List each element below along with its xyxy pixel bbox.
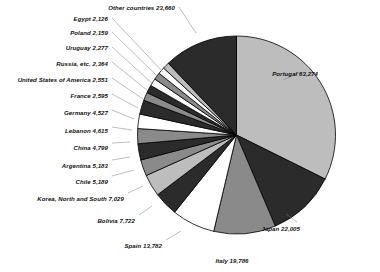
leader-line [128,186,143,193]
slice-label: Germany 4,527 [64,110,108,116]
leader-line [112,94,138,108]
slice-label: Lebanon 4,615 [65,128,108,134]
slice-label: Portugal 63,274 [272,71,318,77]
leader-line [112,62,148,91]
pie-chart: Portugal 63,274Japan 22,005Italy 19,786S… [0,0,380,272]
slice-label: Spain 13,782 [124,243,162,249]
leader-line [179,7,196,33]
slice-label: Chile 5,189 [76,179,108,185]
slice-label: Poland 2,159 [70,30,108,36]
slice-label: Bolivia 7,722 [97,218,135,224]
slice-label: Argentina 5,183 [62,163,108,169]
slice-label: Japan 22,005 [261,226,300,232]
pie-slices: Portugal 63,274Japan 22,005Italy 19,786S… [137,36,335,234]
leader-line [112,78,143,99]
leader-line [112,170,134,176]
slice-label: China 4,799 [74,145,108,151]
slice-label: Egypt 2,126 [74,16,108,22]
slice-label: Korea, North and South 7,029 [37,196,124,202]
leader-line [139,206,152,215]
leader-line [112,127,132,130]
slice-label: Other countries 23,660 [108,5,175,11]
slice-label: Uruguay 2,277 [66,45,108,51]
slice-label: Russia, etc. 2,364 [56,61,108,67]
leader-line [166,231,181,240]
leader-line [112,18,163,72]
leader-line [112,142,130,143]
leader-line [112,157,130,160]
slice-label: Italy 19,786 [215,258,248,264]
pie-chart-canvas: Portugal 63,274Japan 22,005Italy 19,786S… [0,0,380,272]
slice-label: France 2,595 [70,93,108,99]
slice-label: United States of America 2,551 [18,77,108,83]
leader-line [112,32,158,77]
leader-line [112,110,134,119]
